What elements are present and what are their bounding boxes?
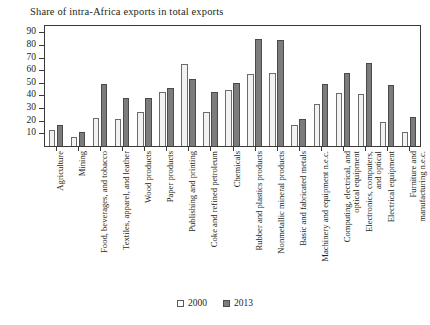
x-tick-mark (210, 147, 211, 151)
bar-2013 (366, 63, 373, 146)
bar-2000 (159, 92, 166, 146)
x-axis-label: Wood products (144, 151, 153, 203)
bar-2000 (269, 73, 276, 146)
bar-group (45, 26, 67, 146)
bar-group (354, 26, 376, 146)
bar-2000 (137, 112, 144, 146)
x-axis-label: Machinery and equipment n.e.c. (321, 151, 330, 262)
bar-2013 (344, 73, 351, 146)
y-axis: 102030405060708090 (0, 25, 44, 147)
bar-2000 (225, 90, 232, 146)
bar-2000 (115, 119, 122, 146)
bar-group (376, 26, 398, 146)
bar-2013 (322, 84, 329, 146)
legend-item-2000[interactable]: 2000 (177, 298, 207, 308)
bar-2013 (255, 39, 262, 146)
x-label-slot: Wood products (133, 151, 155, 291)
bar-group (155, 26, 177, 146)
bar-group (310, 26, 332, 146)
y-tick-label: 60 (27, 65, 37, 75)
x-axis-label: Basic and fabricated metals (299, 151, 308, 246)
x-axis-label: Chemicals (233, 151, 242, 187)
plot-area (45, 26, 420, 146)
x-axis-labels: AgricultureMiningFood, beverages, and to… (45, 151, 420, 291)
x-tick-mark (387, 147, 388, 151)
x-axis-label: Textiles, apparel, and leather (122, 151, 131, 250)
bar-2000 (71, 137, 78, 146)
bar-2013 (233, 83, 240, 146)
y-tick-label: 10 (27, 129, 37, 139)
x-tick-mark (365, 147, 366, 151)
y-tick-label: 50 (27, 78, 37, 88)
x-tick-mark (343, 147, 344, 151)
bar-2013 (145, 98, 152, 146)
x-axis-label: Rubber and plastics products (255, 151, 264, 251)
y-tick-label: 30 (27, 103, 37, 113)
filled-square-swatch (223, 300, 230, 307)
bar-group (133, 26, 155, 146)
bar-group (244, 26, 266, 146)
x-label-slot: Chemicals (222, 151, 244, 291)
bar-group (398, 26, 420, 146)
bar-2000 (93, 118, 100, 146)
x-axis-label: Agriculture (56, 151, 65, 191)
x-label-slot: Basic and fabricated metals (288, 151, 310, 291)
x-axis-label: Paper products (166, 151, 175, 202)
x-label-slot: Machinery and equipment n.e.c. (310, 151, 332, 291)
bar-group (332, 26, 354, 146)
x-label-slot: Electronics, computers,and optical (354, 151, 376, 291)
x-axis-label: Nonmetallic mineral products (277, 151, 286, 254)
y-tick-label: 20 (27, 116, 37, 126)
bar-group (266, 26, 288, 146)
chart-figure: Share of intra-Africa exports in total e… (0, 0, 430, 325)
x-label-slot: Agriculture (45, 151, 67, 291)
x-axis-label: Electrical equipment (387, 151, 396, 222)
x-label-slot: Rubber and plastics products (244, 151, 266, 291)
bar-2000 (203, 112, 210, 146)
hollow-square-swatch (177, 300, 184, 307)
bar-2013 (388, 85, 395, 146)
bar-group (89, 26, 111, 146)
bar-group (288, 26, 310, 146)
y-tick-label: 80 (27, 40, 37, 50)
bar-2013 (189, 79, 196, 146)
bar-2013 (277, 40, 284, 146)
y-tick-label: 90 (27, 28, 37, 38)
bar-2013 (57, 125, 64, 146)
legend-label: 2000 (188, 298, 207, 308)
y-tick-label: 70 (27, 53, 37, 63)
bar-2013 (167, 88, 174, 146)
x-axis-label: Mining (78, 151, 87, 176)
x-label-slot: Mining (67, 151, 89, 291)
bar-2000 (247, 74, 254, 146)
x-axis-label: Coke and refined petroleum (210, 151, 219, 247)
x-label-slot: Food, beverages, and tobacco (89, 151, 111, 291)
bar-group (199, 26, 221, 146)
x-tick-mark (100, 147, 101, 151)
x-axis-label-line: manufacturing n.e.c. (418, 151, 427, 222)
bar-2000 (358, 94, 365, 146)
y-tick-label: 40 (27, 91, 37, 101)
bar-2013 (79, 132, 86, 146)
chart-legend: 20002013 (0, 298, 430, 308)
x-tick-mark (78, 147, 79, 151)
bar-2000 (380, 122, 387, 146)
legend-label: 2013 (234, 298, 253, 308)
x-label-slot: Textiles, apparel, and leather (111, 151, 133, 291)
bar-group (177, 26, 199, 146)
bar-2000 (314, 104, 321, 146)
x-label-slot: Coke and refined petroleum (199, 151, 221, 291)
x-tick-mark (144, 147, 145, 151)
bar-group (111, 26, 133, 146)
bar-group (67, 26, 89, 146)
x-label-slot: Paper products (155, 151, 177, 291)
legend-item-2013[interactable]: 2013 (223, 298, 253, 308)
x-axis-label: Publishing and printing (188, 151, 197, 232)
x-tick-mark (321, 147, 322, 151)
bar-2000 (49, 130, 56, 146)
x-tick-mark (233, 147, 234, 151)
bar-2000 (181, 64, 188, 146)
x-axis-label: Food, beverages, and tobacco (100, 151, 109, 253)
chart-title: Share of intra-Africa exports in total e… (30, 6, 224, 17)
x-axis-label: Furniture andmanufacturing n.e.c. (409, 151, 428, 222)
